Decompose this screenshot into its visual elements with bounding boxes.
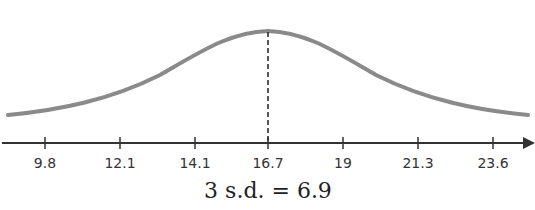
- sd-caption: 3 s.d. = 6.9: [204, 178, 332, 203]
- tick-label: 16.7: [252, 155, 283, 171]
- tick-label: 21.3: [402, 155, 433, 171]
- tick-label: 12.1: [104, 155, 135, 171]
- tick-label: 19: [334, 155, 352, 171]
- axis-arrow-icon: [523, 137, 535, 149]
- tick-label: 23.6: [477, 155, 508, 171]
- tick-label: 9.8: [34, 155, 56, 171]
- tick-label: 14.1: [179, 155, 210, 171]
- normal-distribution-diagram: 9.812.114.116.71921.323.6 3 s.d. = 6.9: [0, 0, 535, 210]
